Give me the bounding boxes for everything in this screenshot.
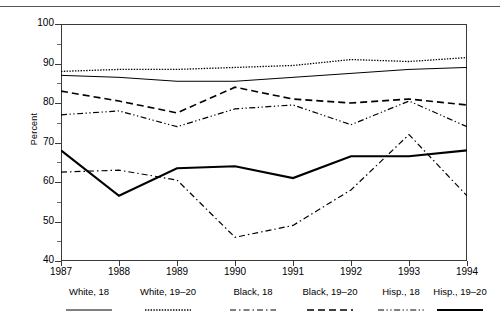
series-line — [61, 87, 467, 113]
series-line — [61, 150, 467, 195]
y-tick-label: 100 — [20, 17, 54, 28]
x-tick-mark — [235, 261, 236, 266]
legend-item[interactable]: Black, 19–20 — [284, 286, 376, 313]
x-tick-label: 1987 — [37, 266, 85, 277]
y-tick-label: 70 — [20, 136, 54, 147]
series-line — [61, 135, 467, 238]
legend-line-swatch — [284, 307, 376, 313]
legend-line-swatch — [51, 307, 127, 313]
legend-item[interactable]: Black, 18 — [215, 286, 291, 313]
legend-item[interactable]: Hisp., 19–20 — [417, 286, 500, 313]
legend-line-swatch — [215, 307, 291, 313]
legend-item-label: Hisp., 19–20 — [417, 286, 500, 298]
legend-line-swatch — [122, 307, 214, 313]
x-tick-label: 1992 — [327, 266, 375, 277]
x-tick-label: 1991 — [269, 266, 317, 277]
y-tick-label: 40 — [20, 254, 54, 265]
x-tick-mark — [351, 261, 352, 266]
y-tick-label: 50 — [20, 215, 54, 226]
x-tick-mark — [177, 261, 178, 266]
legend-line-swatch — [417, 307, 500, 313]
x-tick-label: 1994 — [443, 266, 491, 277]
chart-legend: White, 18White, 19–20Black, 18Black, 19–… — [0, 286, 500, 325]
legend-item-label: Black, 19–20 — [284, 286, 376, 298]
y-tick-label: 90 — [20, 57, 54, 68]
x-tick-mark — [409, 261, 410, 266]
x-tick-mark — [467, 261, 468, 266]
x-tick-mark — [61, 261, 62, 266]
x-tick-mark — [293, 261, 294, 266]
legend-item[interactable]: White, 19–20 — [122, 286, 214, 313]
legend-item-label: White, 18 — [51, 286, 127, 298]
x-tick-label: 1989 — [153, 266, 201, 277]
series-line — [61, 67, 467, 81]
legend-item-label: White, 19–20 — [122, 286, 214, 298]
legend-item[interactable]: White, 18 — [51, 286, 127, 313]
x-tick-mark — [119, 261, 120, 266]
y-tick-label: 60 — [20, 175, 54, 186]
y-tick-label: 80 — [20, 96, 54, 107]
x-tick-label: 1988 — [95, 266, 143, 277]
legend-item-label: Black, 18 — [215, 286, 291, 298]
page-top-rule — [0, 6, 500, 7]
chart-page: Percent 100908070605040 1987198819891990… — [0, 0, 500, 325]
plot-area — [61, 24, 467, 261]
x-tick-label: 1990 — [211, 266, 259, 277]
x-tick-label: 1993 — [385, 266, 433, 277]
series-line — [61, 101, 467, 127]
